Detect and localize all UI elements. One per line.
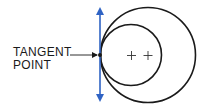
tangent-point-dot (98, 53, 102, 57)
diagram-canvas: TANGENT POINT (0, 0, 209, 111)
small-circle-center-mark (127, 51, 136, 60)
large-circle-center-mark (144, 51, 153, 60)
tangent-point-label-line2: POINT (13, 59, 51, 72)
small-circle (101, 25, 162, 86)
